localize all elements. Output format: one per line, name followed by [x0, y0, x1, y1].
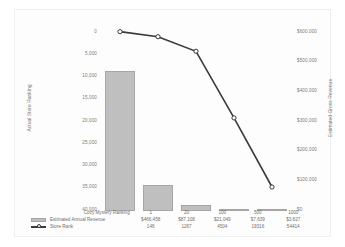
cell-revenue-0: $466,458 — [133, 216, 169, 223]
legend-label-revenue: Estimated Annual Revenue — [50, 217, 105, 222]
chart-container: 0 5,000 10,000 15,000 20,000 25,000 30,0… — [14, 9, 331, 237]
legend-item-estimated-annual-revenue[interactable]: Estimated Annual Revenue — [31, 216, 133, 223]
cell-store-rank-4: 54414 — [276, 223, 311, 230]
left-axis-ticks: 0 5,000 10,000 15,000 20,000 25,000 30,0… — [65, 31, 97, 211]
cell-store-rank-3: 19316 — [240, 223, 275, 230]
marker-store-rank-20[interactable] — [156, 35, 160, 39]
marker-store-rank-1000[interactable] — [270, 185, 274, 189]
left-tick-0: 0 — [94, 29, 97, 34]
cell-store-rank-0: 146 — [133, 223, 169, 230]
bar-swatch-icon — [31, 218, 46, 222]
left-tick-4: 20,000 — [82, 118, 97, 123]
legend-item-store-rank[interactable]: Store Rank — [31, 223, 133, 230]
cell-category-2: 100 — [204, 209, 240, 216]
chart-data-table: Cozy Mystery Ranking 1 20 100 500 1000 E… — [31, 209, 311, 231]
marker-store-rank-500[interactable] — [232, 116, 236, 120]
cell-revenue-3: $7,639 — [240, 216, 275, 223]
cell-category-4: 1000 — [276, 209, 311, 216]
left-tick-3: 15,000 — [82, 95, 97, 100]
cell-revenue-4: $3,827 — [276, 216, 311, 223]
plot-area — [101, 31, 293, 211]
right-tick-2: $400,000 — [297, 88, 317, 93]
left-axis-title: Actual Store Ranking — [26, 58, 32, 158]
table-row-store-rank: Store Rank 146 1267 4504 19316 54414 — [31, 223, 311, 230]
cell-category-0: 1 — [133, 209, 169, 216]
marker-swatch-icon — [37, 224, 41, 228]
marker-store-rank-100[interactable] — [194, 49, 198, 53]
table-row-revenue: Estimated Annual Revenue $466,458 $87,10… — [31, 216, 311, 223]
right-tick-5: $100,000 — [297, 177, 317, 182]
left-tick-5: 25,000 — [82, 140, 97, 145]
table-row-category: Cozy Mystery Ranking 1 20 100 500 1000 — [31, 209, 311, 216]
left-tick-2: 10,000 — [82, 73, 97, 78]
right-axis-title: Estimated Gross Revenue — [327, 58, 333, 158]
store-rank-line-series — [101, 31, 293, 211]
legend-label-store-rank: Store Rank — [50, 224, 73, 229]
right-tick-3: $300,000 — [297, 118, 317, 123]
row-label-cozy-mystery-ranking: Cozy Mystery Ranking — [31, 209, 133, 216]
left-tick-1: 5,000 — [85, 51, 97, 56]
marker-store-rank-1[interactable] — [118, 30, 122, 34]
left-tick-6: 30,000 — [82, 162, 97, 167]
store-rank-polyline — [120, 32, 272, 187]
cell-category-1: 20 — [169, 209, 205, 216]
right-tick-1: $500,000 — [297, 58, 317, 63]
cell-revenue-2: $21,049 — [204, 216, 240, 223]
right-tick-4: $200,000 — [297, 147, 317, 152]
cell-store-rank-2: 4504 — [204, 223, 240, 230]
cell-store-rank-1: 1267 — [169, 223, 205, 230]
cell-category-3: 500 — [240, 209, 275, 216]
cell-revenue-1: $87,108 — [169, 216, 205, 223]
left-tick-7: 35,000 — [82, 184, 97, 189]
right-tick-0: $600,000 — [297, 29, 317, 34]
